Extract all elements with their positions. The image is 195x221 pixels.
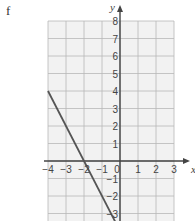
coordinate-graph: −4−3−2−1012387654321−1−2−3xy: [0, 0, 195, 221]
x-tick-label: −3: [60, 164, 72, 175]
y-tick-label: 6: [112, 51, 118, 62]
x-axis-arrow-icon: [183, 158, 190, 164]
x-tick-label: −4: [42, 164, 54, 175]
y-tick-label: 1: [112, 139, 118, 150]
y-tick-label: 4: [112, 86, 118, 97]
y-axis-arrow-icon: [117, 5, 123, 12]
y-tick-label: 8: [112, 16, 118, 27]
x-tick-label: 2: [153, 164, 159, 175]
y-tick-label: 7: [112, 34, 118, 45]
y-tick-label: −3: [107, 209, 119, 220]
x-tick-label: −2: [78, 164, 90, 175]
x-axis-label: x: [190, 163, 195, 175]
y-tick-label: 2: [112, 121, 118, 132]
y-tick-label: 3: [112, 104, 118, 115]
x-tick-label: 1: [135, 164, 141, 175]
y-tick-label: −1: [107, 174, 119, 185]
y-tick-label: 5: [112, 69, 118, 80]
y-tick-label: −2: [107, 191, 119, 202]
y-axis-label: y: [109, 1, 115, 13]
x-tick-label: 3: [171, 164, 177, 175]
